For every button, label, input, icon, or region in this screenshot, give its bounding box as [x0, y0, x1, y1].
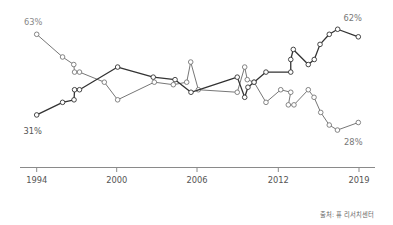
data-point-rising: [72, 98, 77, 103]
data-point-rising: [264, 70, 269, 75]
data-point-rising: [327, 32, 332, 37]
data-point-falling: [77, 70, 82, 75]
data-point-rising: [72, 87, 77, 92]
data-point-falling: [245, 77, 250, 82]
x-tick-label: 2000: [106, 175, 127, 185]
data-point-falling: [286, 103, 291, 108]
series-layer: [34, 27, 360, 132]
data-point-rising: [356, 35, 361, 40]
data-point-rising: [306, 62, 311, 67]
data-point-falling: [327, 123, 332, 128]
data-point-rising: [189, 90, 194, 95]
data-point-rising: [288, 57, 293, 62]
data-point-falling: [264, 100, 269, 105]
data-point-rising: [312, 57, 317, 62]
x-axis: 19942000200620122019: [20, 168, 375, 186]
data-point-rising: [335, 27, 340, 32]
data-point-falling: [34, 32, 39, 37]
x-tick-label: 1994: [26, 175, 47, 185]
data-point-rising: [235, 75, 240, 80]
data-point-rising: [288, 70, 293, 75]
data-point-falling: [292, 103, 297, 108]
series-line-falling: [37, 34, 359, 130]
data-point-rising: [60, 100, 65, 105]
data-point-falling: [242, 65, 247, 70]
series-line-rising: [37, 29, 359, 115]
data-point-rising: [151, 75, 156, 80]
value-label-rising-end: 62%: [343, 13, 362, 23]
data-point-falling: [72, 70, 77, 75]
value-label-falling-end: 28%: [344, 137, 363, 147]
line-chart: 19942000200620122019 63%31%62%28% 출처: 퓨 …: [0, 0, 393, 225]
data-point-falling: [60, 55, 65, 60]
data-point-rising: [252, 80, 257, 85]
data-point-rising: [173, 77, 178, 82]
annotations: 63%31%62%28%: [23, 13, 362, 146]
data-point-falling: [152, 80, 157, 85]
value-label-rising-start: 31%: [23, 126, 42, 136]
value-label-falling-start: 63%: [24, 17, 43, 27]
data-point-rising: [291, 47, 296, 52]
data-point-rising: [115, 65, 120, 70]
data-point-falling: [356, 120, 361, 125]
data-point-falling: [115, 98, 120, 103]
data-point-rising: [246, 85, 251, 90]
data-point-rising: [242, 95, 247, 100]
data-point-falling: [306, 87, 311, 92]
x-tick-label: 2012: [268, 175, 289, 185]
data-point-rising: [77, 87, 82, 92]
data-point-rising: [34, 113, 39, 118]
data-point-falling: [278, 87, 283, 92]
data-point-falling: [188, 60, 193, 65]
data-point-falling: [288, 90, 293, 95]
data-point-falling: [335, 128, 340, 133]
data-point-falling: [102, 80, 107, 85]
data-point-falling: [184, 80, 189, 85]
data-point-falling: [235, 90, 240, 95]
data-point-rising: [318, 42, 323, 47]
data-point-falling: [312, 95, 317, 100]
x-tick-label: 2006: [186, 175, 207, 185]
series-falling: [34, 32, 360, 132]
series-rising: [34, 27, 360, 117]
data-point-falling: [71, 62, 76, 67]
data-point-falling: [171, 82, 176, 87]
x-tick-label: 2019: [348, 175, 369, 185]
data-point-falling: [318, 110, 323, 115]
source-note: 출처: 퓨 리서치센터: [320, 210, 374, 219]
